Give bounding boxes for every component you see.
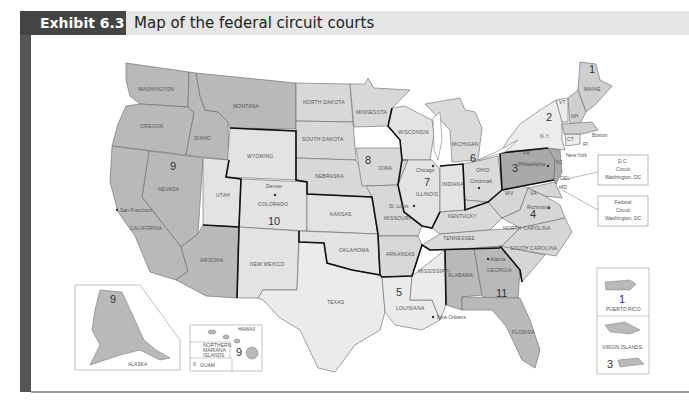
svg-text:ALABAMA: ALABAMA <box>448 272 473 278</box>
svg-text:COLORADO: COLORADO <box>258 201 288 207</box>
svg-text:9: 9 <box>193 361 196 367</box>
svg-text:New Orleans: New Orleans <box>437 314 466 320</box>
svg-text:Richmond: Richmond <box>527 204 550 210</box>
svg-text:Washington, DC: Washington, DC <box>605 215 642 221</box>
svg-text:UTAH: UTAH <box>216 192 230 198</box>
svg-text:NH: NH <box>571 113 579 119</box>
svg-text:St. Louis: St. Louis <box>389 203 409 209</box>
svg-text:NORTH DAKOTA: NORTH DAKOTA <box>303 99 345 105</box>
svg-text:VT: VT <box>559 99 566 105</box>
svg-text:MD: MD <box>559 184 567 190</box>
svg-text:NJ: NJ <box>556 159 563 165</box>
state-oregon <box>112 104 194 155</box>
svg-text:IOWA: IOWA <box>378 165 392 171</box>
svg-text:NEBRASKA: NEBRASKA <box>315 173 344 179</box>
svg-text:VA: VA <box>530 190 537 196</box>
svg-text:NORTH CAROLINA: NORTH CAROLINA <box>503 225 551 231</box>
svg-text:Circuit: Circuit <box>616 207 631 213</box>
svg-text:6: 6 <box>470 152 476 164</box>
federal-circuit-callout: Federal Circuit Washington, DC <box>562 190 648 226</box>
svg-text:WV: WV <box>505 190 514 196</box>
svg-text:OREGON: OREGON <box>140 123 164 129</box>
svg-text:ILLINOIS: ILLINOIS <box>416 191 439 197</box>
svg-text:OKLAHOMA: OKLAHOMA <box>339 247 369 253</box>
svg-text:KANSAS: KANSAS <box>330 211 352 217</box>
svg-text:MAINE: MAINE <box>584 86 601 92</box>
svg-text:PA: PA <box>523 150 530 156</box>
hawaii-inset: HAWAII 9 NORTHERN MARIANA ISLANDS 9 GUAM <box>190 325 262 371</box>
svg-text:CT: CT <box>567 136 574 142</box>
svg-text:D.C.: D.C. <box>618 158 628 164</box>
svg-text:Philadelphia: Philadelphia <box>518 161 545 167</box>
svg-text:1: 1 <box>589 63 595 75</box>
svg-text:OHIO: OHIO <box>476 167 490 173</box>
svg-text:Circuit: Circuit <box>616 166 631 172</box>
svg-text:ISLANDS: ISLANDS <box>203 352 225 358</box>
svg-text:1: 1 <box>619 293 625 305</box>
svg-text:TEXAS: TEXAS <box>327 299 345 305</box>
svg-text:HAWAII: HAWAII <box>238 326 255 332</box>
svg-text:9: 9 <box>236 346 242 358</box>
svg-text:MISSOURI: MISSOURI <box>384 215 410 221</box>
dc-circuit-callout: D.C. Circuit Washington, DC <box>562 155 648 185</box>
svg-text:DEL: DEL <box>560 175 570 181</box>
svg-text:MISSISSIPPI: MISSISSIPPI <box>418 268 450 274</box>
svg-text:Boston: Boston <box>592 132 608 138</box>
svg-text:Cincinnati: Cincinnati <box>470 178 492 184</box>
svg-text:WASHINGTON: WASHINGTON <box>138 86 174 92</box>
svg-text:INDIANA: INDIANA <box>442 181 464 187</box>
svg-text:GEORGIA: GEORGIA <box>487 267 512 273</box>
svg-text:MINNESOTA: MINNESOTA <box>356 109 388 115</box>
svg-text:ALASKA: ALASKA <box>128 361 148 367</box>
svg-text:MICHIGAN: MICHIGAN <box>452 141 479 147</box>
svg-text:KENTUCKY: KENTUCKY <box>448 213 477 219</box>
svg-text:NEW MEXICO: NEW MEXICO <box>250 261 285 267</box>
svg-text:Atlanta: Atlanta <box>490 256 506 262</box>
svg-text:IDAHO: IDAHO <box>194 135 211 141</box>
svg-text:7: 7 <box>424 176 430 188</box>
caribbean-inset: 1 PUERTO RICO VIRGIN ISLANDS 3 <box>597 268 649 374</box>
svg-text:SOUTH DAKOTA: SOUTH DAKOTA <box>302 136 344 142</box>
svg-text:9: 9 <box>110 293 116 305</box>
svg-text:2: 2 <box>546 111 552 123</box>
svg-text:WISCONSIN: WISCONSIN <box>398 129 429 135</box>
svg-text:ARKANSAS: ARKANSAS <box>386 251 415 257</box>
svg-text:San Francisco: San Francisco <box>120 207 152 213</box>
svg-text:Chicago: Chicago <box>416 167 435 173</box>
svg-text:New York: New York <box>566 152 588 158</box>
svg-text:3: 3 <box>607 358 613 370</box>
state-washington <box>126 63 189 107</box>
svg-text:Federal: Federal <box>615 199 632 205</box>
svg-text:FLORIDA: FLORIDA <box>512 329 536 335</box>
svg-text:GUAM: GUAM <box>200 362 215 368</box>
svg-text:LOUISIANA: LOUISIANA <box>396 305 425 311</box>
svg-text:8: 8 <box>365 154 371 166</box>
svg-text:ARIZONA: ARIZONA <box>200 257 224 263</box>
svg-text:10: 10 <box>268 215 280 227</box>
svg-text:MONTANA: MONTANA <box>233 103 259 109</box>
circuit-1-region <box>562 62 612 134</box>
svg-text:Washington, DC: Washington, DC <box>605 174 642 180</box>
alaska-inset: 9 ALASKA <box>75 285 180 370</box>
svg-text:9: 9 <box>170 160 176 172</box>
svg-text:11: 11 <box>496 287 507 299</box>
circuit-courts-map: WASHINGTON OREGON IDAHO MONTANA WYOMING … <box>0 0 689 402</box>
svg-text:RI: RI <box>583 141 588 147</box>
svg-text:VIRGIN ISLANDS: VIRGIN ISLANDS <box>602 344 643 350</box>
state-indiana <box>440 164 465 212</box>
svg-text:Denver: Denver <box>266 183 282 189</box>
svg-text:TENNESSEE: TENNESSEE <box>443 235 476 241</box>
svg-text:PUERTO RICO: PUERTO RICO <box>606 306 641 312</box>
svg-text:N.Y.: N.Y. <box>540 133 550 139</box>
svg-text:5: 5 <box>396 286 402 298</box>
svg-text:SOUTH CAROLINA: SOUTH CAROLINA <box>510 245 558 251</box>
svg-text:CALIFORNIA: CALIFORNIA <box>130 225 162 231</box>
svg-text:WYOMING: WYOMING <box>247 153 273 159</box>
svg-text:NEVADA: NEVADA <box>158 186 180 192</box>
